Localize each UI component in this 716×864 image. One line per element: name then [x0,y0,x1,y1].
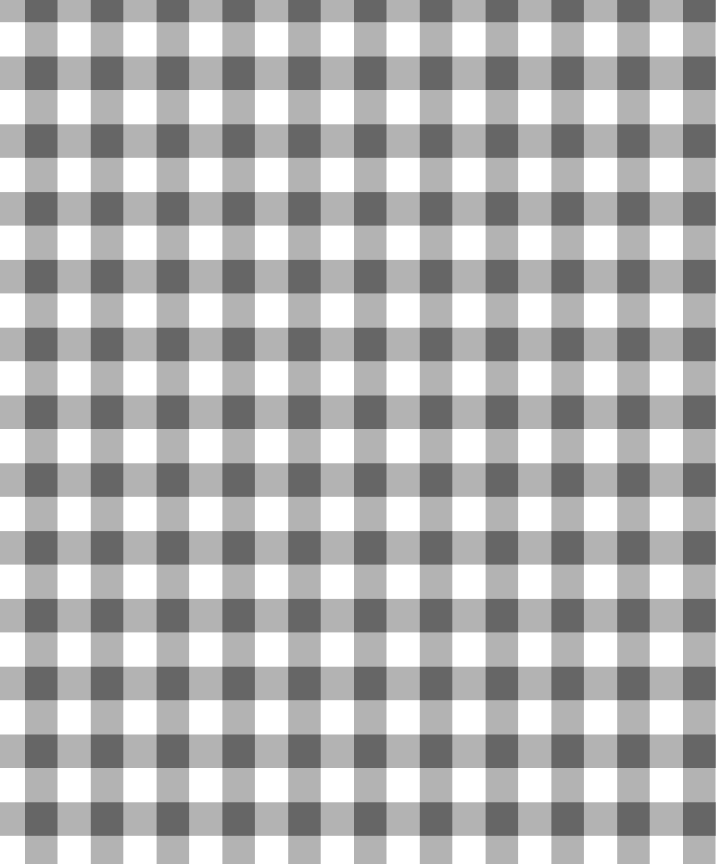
intersection-square [617,802,650,836]
intersection-square [91,260,124,294]
intersection-square [25,463,58,497]
intersection-square [420,0,453,22]
intersection-square [25,667,58,701]
intersection-square [25,599,58,633]
intersection-square [354,802,387,836]
intersection-square [486,57,518,91]
intersection-square [420,124,453,158]
intersection-square [617,260,650,294]
intersection-square [486,599,518,633]
intersection-square [25,57,58,91]
intersection-square [551,124,584,158]
intersection-square [486,124,518,158]
intersection-square [157,396,190,430]
intersection-square [683,802,716,836]
intersection-square [25,260,58,294]
intersection-square [420,667,453,701]
intersection-square [157,531,190,565]
intersection-square [617,396,650,430]
intersection-square [486,260,518,294]
intersection-square [222,531,255,565]
intersection-square [91,463,124,497]
intersection-square [25,802,58,836]
intersection-square [25,328,58,362]
intersection-square [288,328,321,362]
intersection-square [551,599,584,633]
intersection-square [157,667,190,701]
intersection-square [288,396,321,430]
intersection-square [288,531,321,565]
intersection-square [222,463,255,497]
intersection-square [683,0,716,22]
intersection-square [617,735,650,769]
intersection-square [288,124,321,158]
intersection-square [157,463,190,497]
intersection-square [157,802,190,836]
intersection-square [157,328,190,362]
intersection-square [91,396,124,430]
intersection-square [683,124,716,158]
intersection-square [683,396,716,430]
intersection-square [157,735,190,769]
intersection-square [288,57,321,91]
intersection-square [683,192,716,226]
intersection-square [551,328,584,362]
intersection-square [420,328,453,362]
intersection-square [420,192,453,226]
intersection-square [683,735,716,769]
intersection-square [617,328,650,362]
intersection-square [288,0,321,22]
intersection-square [25,124,58,158]
intersection-square [91,0,124,22]
intersection-square [91,599,124,633]
intersection-square [354,0,387,22]
intersection-square [617,463,650,497]
intersection-square [617,599,650,633]
intersection-square [486,328,518,362]
intersection-square [354,463,387,497]
intersection-square [354,192,387,226]
intersection-square [222,192,255,226]
intersection-square [91,328,124,362]
intersection-square [222,260,255,294]
intersection-square [354,260,387,294]
intersection-square [683,328,716,362]
intersection-square [551,667,584,701]
intersection-square [157,57,190,91]
intersection-square [25,396,58,430]
intersection-square [222,667,255,701]
intersection-square [91,124,124,158]
intersection-square [25,0,58,22]
intersection-square [91,531,124,565]
intersection-square [420,396,453,430]
intersection-square [551,802,584,836]
intersection-square [420,802,453,836]
intersection-square [420,260,453,294]
intersection-square [486,802,518,836]
intersection-square [551,463,584,497]
intersection-square [551,0,584,22]
intersection-square [91,735,124,769]
intersection-square [354,57,387,91]
intersection-square [288,192,321,226]
intersection-square [354,735,387,769]
intersection-square [420,599,453,633]
intersection-square [222,802,255,836]
intersection-square [486,667,518,701]
intersection-square [683,599,716,633]
intersection-square [617,0,650,22]
intersection-square [25,192,58,226]
intersection-square [683,531,716,565]
intersection-square [551,396,584,430]
intersection-square [617,192,650,226]
intersection-square [420,531,453,565]
intersection-square [354,531,387,565]
intersection-square [683,57,716,91]
intersection-square [420,57,453,91]
intersection-square [617,667,650,701]
intersection-square [420,463,453,497]
intersection-square [617,531,650,565]
intersection-square [25,531,58,565]
intersection-square [25,735,58,769]
intersection-square [91,57,124,91]
